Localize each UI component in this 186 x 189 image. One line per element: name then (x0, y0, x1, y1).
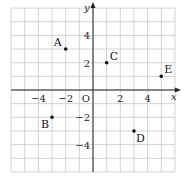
point-marker (50, 116, 54, 120)
axes: xy (11, 2, 181, 172)
origin-label: O (82, 93, 90, 104)
y-tick-label: −2 (75, 112, 90, 123)
x-axis-label: x (171, 91, 177, 102)
point-marker (64, 47, 68, 51)
x-tick-label: 4 (144, 93, 150, 104)
point-label: B (41, 118, 49, 131)
point-marker (159, 75, 163, 79)
x-tick-label: −4 (31, 93, 46, 104)
y-tick-label: 2 (84, 58, 90, 69)
x-tick-label: −2 (58, 93, 73, 104)
point-a: A (53, 36, 68, 51)
point-label: A (53, 36, 63, 49)
point-marker (105, 61, 109, 65)
point-label: E (164, 63, 172, 76)
y-tick-label: 4 (84, 30, 90, 41)
point-label: D (136, 132, 145, 145)
y-axis-label: y (83, 2, 90, 13)
y-tick-label: −4 (75, 140, 90, 151)
point-label: C (110, 50, 118, 63)
coordinate-plane: xy −4−22442−2−4O ABCDE (0, 0, 186, 189)
x-tick-label: 2 (117, 93, 123, 104)
y-axis-arrow-icon (91, 2, 96, 8)
